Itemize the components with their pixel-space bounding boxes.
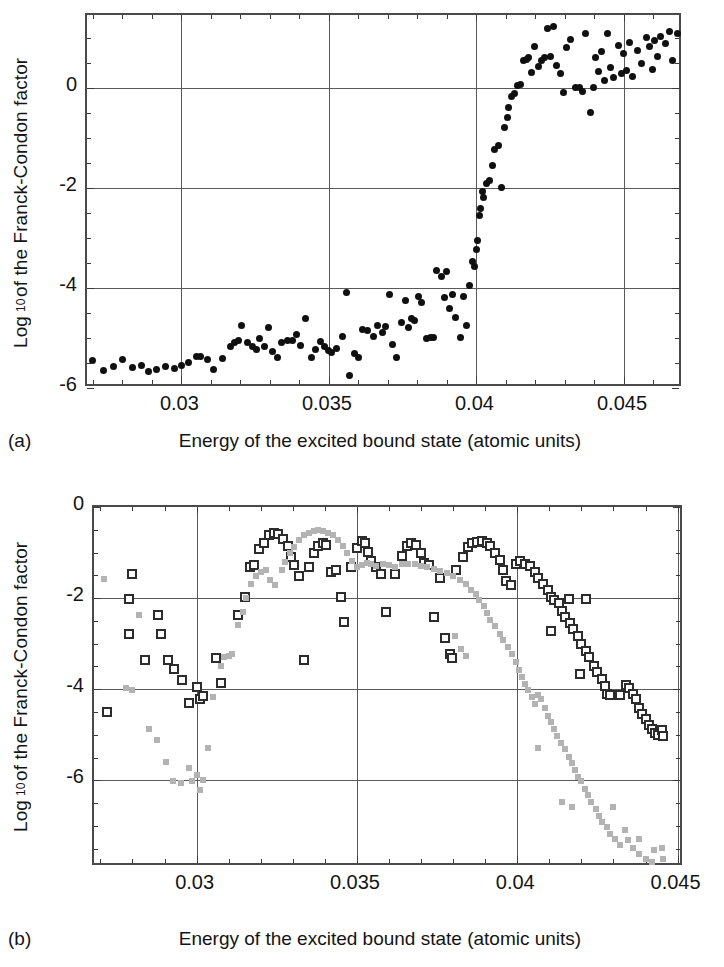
data-point-gray-square — [548, 719, 554, 725]
data-point-circle — [274, 354, 281, 361]
y-axis-tick-minor — [94, 530, 98, 531]
data-point-open-square — [658, 731, 668, 741]
x-axis-tick-minor — [453, 859, 454, 863]
y-axis-tick-major — [673, 598, 680, 599]
data-point-circle — [293, 331, 300, 338]
gridline-horizontal — [87, 288, 679, 289]
data-point-gray-square — [572, 767, 578, 773]
y-axis-tick-major — [94, 598, 101, 599]
y-axis-tick-minor — [676, 575, 680, 576]
y-axis-tick-minor — [87, 163, 91, 164]
x-axis-tick-label: 0.04 — [475, 871, 555, 894]
data-point-circle — [374, 322, 381, 329]
y-axis-tick-minor — [94, 666, 98, 667]
x-axis-tick-minor — [358, 15, 359, 19]
data-point-gray-square — [582, 786, 588, 792]
data-point-circle — [595, 68, 602, 75]
x-axis-tick-minor — [93, 15, 94, 19]
data-point-gray-square — [542, 705, 548, 711]
data-point-gray-square — [519, 674, 525, 680]
data-point-circle — [531, 43, 538, 50]
data-point-gray-square — [418, 563, 424, 569]
data-point-gray-square — [282, 559, 288, 565]
data-point-circle — [289, 337, 296, 344]
x-axis-tick-minor — [485, 859, 486, 863]
data-point-open-square — [575, 669, 585, 679]
data-point-gray-square — [625, 837, 631, 843]
data-point-circle — [643, 34, 650, 41]
y-axis-label-main-b: of the Franck-Condon factor — [10, 542, 31, 781]
data-point-circle — [339, 333, 346, 340]
data-point-circle — [308, 354, 315, 361]
y-axis-tick-minor — [675, 263, 679, 264]
data-point-gray-square — [373, 563, 379, 569]
data-point-open-square — [615, 690, 625, 700]
x-axis-tick-minor — [581, 859, 582, 863]
data-point-circle — [669, 57, 676, 64]
x-axis-tick-minor — [417, 15, 418, 19]
data-point-gray-square — [588, 799, 594, 805]
data-point-gray-square — [463, 653, 469, 659]
y-axis-tick-label: 0 — [42, 492, 84, 515]
x-axis-tick-label: 0.035 — [287, 392, 367, 415]
data-point-gray-square — [562, 746, 568, 752]
y-axis-tick-major — [87, 288, 94, 289]
x-axis-tick-label: 0.045 — [636, 871, 716, 894]
data-point-gray-square — [522, 681, 528, 687]
data-point-circle — [604, 30, 611, 37]
x-axis-tick-minor — [613, 507, 614, 511]
y-axis-tick-minor — [675, 363, 679, 364]
data-point-gray-square — [529, 694, 535, 700]
data-point-gray-square — [197, 787, 203, 793]
gridline-vertical — [678, 507, 679, 863]
data-point-circle — [460, 293, 467, 300]
data-point-gray-square — [659, 845, 665, 851]
data-point-circle — [100, 367, 107, 374]
gridline-horizontal — [87, 188, 679, 189]
data-point-open-square — [184, 698, 194, 708]
data-point-gray-square — [487, 617, 493, 623]
data-point-gray-square — [651, 847, 657, 853]
data-point-circle — [89, 357, 96, 364]
data-point-gray-square — [349, 558, 355, 564]
y-axis-tick-major — [672, 88, 679, 89]
data-point-circle — [662, 40, 669, 47]
data-point-circle — [256, 335, 263, 342]
x-axis-tick-major — [476, 15, 477, 21]
data-point-circle — [501, 124, 508, 131]
y-axis-tick-minor — [94, 621, 98, 622]
x-axis-tick-major — [181, 377, 182, 384]
data-point-gray-square — [229, 651, 235, 657]
data-point-gray-square — [509, 651, 515, 657]
data-point-circle — [620, 50, 627, 57]
y-axis-tick-minor — [94, 758, 98, 759]
data-point-open-square — [169, 664, 179, 674]
x-axis-tick-minor — [122, 15, 123, 19]
data-point-gray-square — [335, 537, 341, 543]
data-point-circle — [666, 28, 673, 35]
data-point-open-square — [339, 617, 349, 627]
data-point-gray-square — [617, 842, 623, 848]
data-point-gray-square — [492, 623, 498, 629]
y-axis-tick-minor — [87, 313, 91, 314]
data-point-gray-square — [235, 622, 241, 628]
data-point-circle — [498, 184, 505, 191]
x-axis-tick-minor — [421, 859, 422, 863]
data-point-gray-square — [279, 567, 285, 573]
data-point-circle — [495, 142, 502, 149]
y-axis-tick-minor — [94, 644, 98, 645]
data-point-gray-square — [636, 836, 642, 842]
x-axis-tick-minor — [646, 507, 647, 511]
x-axis-tick-minor — [100, 507, 101, 511]
data-point-gray-square — [248, 581, 254, 587]
data-point-gray-square — [431, 566, 437, 572]
y-axis-tick-minor — [676, 849, 680, 850]
data-point-gray-square — [585, 792, 591, 798]
x-axis-tick-major — [357, 856, 358, 863]
x-axis-tick-label: 0.03 — [155, 871, 235, 894]
x-axis-tick-minor — [165, 507, 166, 511]
data-point-circle — [579, 88, 586, 95]
x-axis-tick-minor — [211, 380, 212, 384]
x-axis-tick-minor — [388, 15, 389, 19]
y-axis-tick-minor — [87, 138, 91, 139]
